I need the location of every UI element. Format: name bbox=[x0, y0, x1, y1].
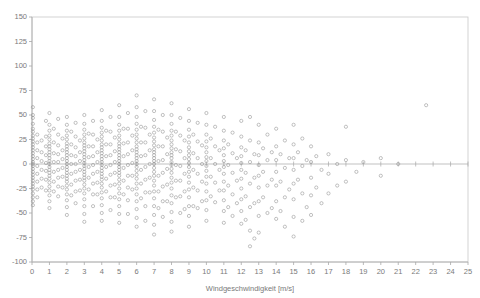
y-tick-label: -50 bbox=[0, 209, 27, 217]
y-tick-label: 25 bbox=[0, 136, 27, 144]
y-tick-label: 0 bbox=[0, 160, 27, 168]
x-axis-title: Windgeschwindigkeit [m/s] bbox=[32, 284, 468, 293]
data-point-group bbox=[31, 94, 427, 248]
y-tick-label: 100 bbox=[0, 62, 27, 70]
x-tick-label: 25 bbox=[458, 268, 478, 276]
scatter-chart-figure: -100-75-50-250255075100125150 0123456789… bbox=[0, 0, 480, 298]
y-tick-label: -25 bbox=[0, 185, 27, 193]
chart-canvas bbox=[0, 0, 480, 298]
y-tick-label: 75 bbox=[0, 87, 27, 95]
y-tick-label: 125 bbox=[0, 38, 27, 46]
y-tick-label: -100 bbox=[0, 258, 27, 266]
y-tick-label: 150 bbox=[0, 13, 27, 21]
axes-frame-group bbox=[32, 17, 468, 262]
y-tick-label: -75 bbox=[0, 234, 27, 242]
x-tick-group bbox=[32, 162, 468, 266]
y-tick-label: 50 bbox=[0, 111, 27, 119]
